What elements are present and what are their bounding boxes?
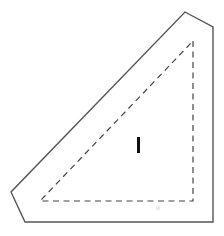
inner-dashed-polygon[interactable] [40,41,193,201]
shape-diagram-svg [0,0,224,236]
faint-dot-mark [156,206,160,210]
drawing-canvas [0,0,224,236]
outer-solid-polygon[interactable] [11,12,213,222]
